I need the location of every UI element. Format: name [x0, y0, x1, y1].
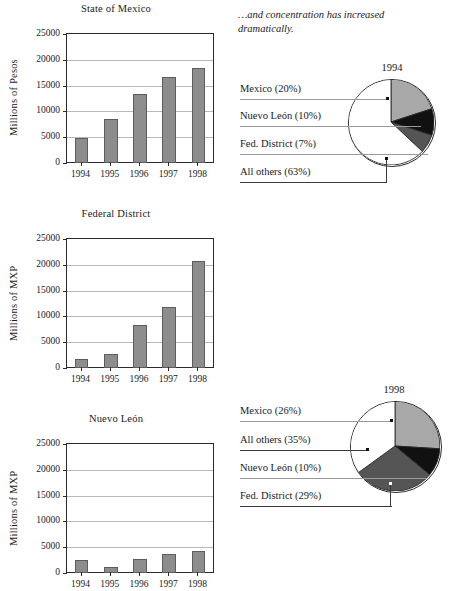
y-tick-label: 0	[55, 567, 60, 577]
y-tick-mark	[63, 521, 67, 522]
x-tick-mark	[110, 162, 111, 166]
bar	[192, 68, 205, 163]
y-tick-mark	[63, 60, 67, 61]
x-tick-mark	[197, 572, 198, 576]
bar	[133, 94, 146, 163]
leader-line-nuevo-leon	[240, 478, 426, 479]
y-tick-mark	[63, 573, 67, 574]
chart-y-axis-label: Millions of MXP	[8, 243, 19, 363]
x-tick-mark	[168, 367, 169, 371]
y-tick-mark	[63, 470, 67, 471]
x-axis-label: 1996	[130, 169, 149, 179]
pie-graphic	[350, 401, 442, 493]
pie-label-all-others: All others (35%)	[240, 434, 311, 445]
x-tick-mark	[81, 572, 82, 576]
y-tick-mark	[63, 368, 67, 369]
leader-line-all-others-vertical	[386, 159, 387, 182]
x-tick-mark	[139, 367, 140, 371]
x-tick-mark	[139, 162, 140, 166]
y-tick-mark	[63, 163, 67, 164]
x-tick-mark	[197, 162, 198, 166]
y-tick-label: 5000	[41, 541, 60, 551]
bar	[104, 119, 117, 163]
x-tick-mark	[110, 367, 111, 371]
pie-chart-1998: 1998 Mexico (26%) All others (35%) Nuevo…	[236, 384, 462, 512]
leader-line-nuevo-leon	[240, 126, 421, 127]
x-axis-label: 1995	[100, 374, 119, 384]
grid-line	[67, 470, 213, 471]
y-tick-label: 10000	[36, 515, 60, 525]
y-tick-label: 5000	[41, 336, 60, 346]
bar	[75, 560, 88, 573]
y-tick-mark	[63, 291, 67, 292]
bar	[133, 559, 146, 573]
x-tick-mark	[168, 572, 169, 576]
pie-label-fed-district: Fed. District (7%)	[240, 138, 316, 149]
grid-line	[67, 60, 213, 61]
grid-line	[67, 496, 213, 497]
pie-label-nuevo-leon: Nuevo León (10%)	[240, 110, 321, 121]
x-axis-label: 1998	[188, 374, 207, 384]
x-tick-mark	[81, 367, 82, 371]
leader-line-mexico	[240, 99, 388, 100]
x-axis-label: 1997	[159, 579, 178, 589]
leader-line-mexico	[240, 421, 392, 422]
y-tick-label: 20000	[36, 259, 60, 269]
leader-dot-mexico	[386, 97, 389, 100]
y-tick-label: 5000	[41, 131, 60, 141]
bar	[162, 554, 175, 573]
leader-dot-fed-district	[389, 482, 392, 485]
leader-dot-all-others	[385, 157, 388, 160]
y-tick-label: 25000	[36, 28, 60, 38]
bar	[162, 307, 175, 368]
plot-area	[66, 443, 214, 573]
bar-chart-state-of-mexico: State of Mexico Millions of Pesos 050001…	[0, 0, 232, 200]
grid-line	[67, 547, 213, 548]
x-tick-mark	[197, 367, 198, 371]
y-tick-label: 0	[55, 157, 60, 167]
pie-label-mexico: Mexico (20%)	[240, 83, 301, 94]
y-tick-mark	[63, 137, 67, 138]
leader-dot-all-others	[366, 448, 369, 451]
y-tick-label: 15000	[36, 285, 60, 295]
chart-title: Federal District	[0, 208, 232, 219]
x-tick-mark	[168, 162, 169, 166]
x-axis-label: 1994	[71, 169, 90, 179]
leader-line-all-others	[240, 450, 368, 451]
bar	[104, 354, 117, 368]
bar	[133, 325, 146, 368]
bar-chart-federal-district: Federal District Millions of MXP 0500010…	[0, 205, 232, 405]
leader-line-fed-district	[240, 506, 392, 507]
bar	[192, 551, 205, 573]
section-note: …and concentration has increased dramati…	[238, 8, 438, 36]
y-tick-mark	[63, 342, 67, 343]
plot-area	[66, 33, 214, 163]
y-tick-mark	[63, 34, 67, 35]
pie-year-label: 1994	[382, 62, 403, 73]
bar-chart-nuevo-leon: Nuevo León Millions of MXP 0500010000150…	[0, 410, 232, 591]
leader-line-all-others	[240, 182, 387, 183]
x-axis-label: 1995	[100, 579, 119, 589]
chart-title: Nuevo León	[0, 413, 232, 424]
x-axis-label: 1994	[71, 374, 90, 384]
pie-year-label: 1998	[384, 384, 405, 395]
y-tick-label: 15000	[36, 80, 60, 90]
leader-line-fed-district-vertical	[390, 484, 391, 506]
y-tick-mark	[63, 496, 67, 497]
y-tick-label: 20000	[36, 54, 60, 64]
y-tick-mark	[63, 316, 67, 317]
x-axis-label: 1998	[188, 579, 207, 589]
leader-dot-mexico	[390, 419, 393, 422]
y-tick-label: 25000	[36, 233, 60, 243]
y-tick-mark	[63, 86, 67, 87]
y-tick-mark	[63, 547, 67, 548]
pie-label-fed-district: Fed. District (29%)	[240, 490, 321, 501]
pie-chart-1994: 1994 Mexico (20%) Nuevo León (10%) Fed. …	[236, 62, 462, 190]
y-tick-mark	[63, 265, 67, 266]
y-tick-label: 0	[55, 362, 60, 372]
x-tick-mark	[81, 162, 82, 166]
y-tick-label: 10000	[36, 310, 60, 320]
x-tick-mark	[139, 572, 140, 576]
x-axis-label: 1997	[159, 169, 178, 179]
